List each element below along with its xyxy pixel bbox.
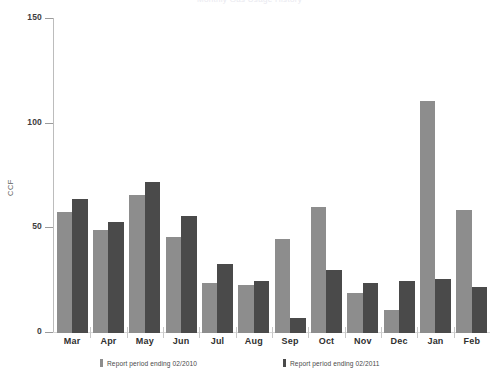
- bar: [181, 216, 197, 333]
- x-axis-label-nov: Nov: [345, 336, 381, 346]
- y-tick-mark: [45, 123, 53, 124]
- bar-groups: [54, 18, 490, 333]
- bar-group: [345, 18, 381, 333]
- bar: [363, 283, 379, 333]
- bar: [202, 283, 218, 333]
- bar-group: [236, 18, 272, 333]
- y-tick-mark: [45, 227, 53, 228]
- y-tick-label: 50: [32, 221, 42, 231]
- bar: [254, 281, 270, 333]
- y-tick-label: 0: [37, 326, 42, 336]
- x-axis-label-feb: Feb: [454, 336, 490, 346]
- bar-group: [90, 18, 126, 333]
- bar-group: [163, 18, 199, 333]
- bar: [72, 199, 88, 333]
- bar-group: [127, 18, 163, 333]
- y-tick-0: 0: [0, 332, 53, 333]
- y-tick-label: 100: [27, 117, 42, 127]
- bar: [435, 279, 451, 333]
- y-tick-label: 150: [27, 12, 42, 22]
- bar: [129, 195, 145, 333]
- x-axis-label-apr: Apr: [90, 336, 126, 346]
- y-tick-150: 150: [0, 18, 53, 19]
- x-axis-label-jan: Jan: [417, 336, 453, 346]
- x-axis-label-sep: Sep: [272, 336, 308, 346]
- bar: [347, 293, 363, 333]
- bar-group: [454, 18, 490, 333]
- y-tick-mark: [45, 332, 53, 333]
- bar: [217, 264, 233, 333]
- bar-group: [381, 18, 417, 333]
- x-axis-label-oct: Oct: [308, 336, 344, 346]
- chart-title: Monthly Gas Usage History: [0, 0, 499, 4]
- bar-group: [417, 18, 453, 333]
- bar: [108, 222, 124, 333]
- bar: [472, 287, 488, 333]
- bar-group: [272, 18, 308, 333]
- legend-item: Report period ending 02/2010: [100, 359, 197, 367]
- bar: [326, 270, 342, 333]
- legend-label: Report period ending 02/2010: [107, 360, 197, 367]
- y-axis-label: CCF: [6, 179, 15, 196]
- chart-legend: Report period ending 02/2010Report perio…: [0, 359, 499, 373]
- x-axis-label-may: May: [127, 336, 163, 346]
- bar: [93, 230, 109, 333]
- bar-chart: Monthly Gas Usage History CCF 050100150 …: [0, 0, 499, 380]
- bar: [456, 210, 472, 334]
- bar-group: [54, 18, 90, 333]
- legend-label: Report period ending 02/2011: [290, 360, 380, 367]
- legend-item: Report period ending 02/2011: [283, 359, 380, 367]
- bar: [275, 239, 291, 333]
- y-tick-50: 50: [0, 227, 53, 228]
- bar-group: [308, 18, 344, 333]
- bar: [384, 310, 400, 333]
- x-axis-label-aug: Aug: [236, 336, 272, 346]
- y-tick-mark: [45, 18, 53, 19]
- legend-swatch-icon: [100, 359, 103, 367]
- bar: [57, 212, 73, 333]
- x-axis-label-dec: Dec: [381, 336, 417, 346]
- bar: [311, 207, 327, 333]
- bar: [399, 281, 415, 333]
- bar: [166, 237, 182, 333]
- bar: [238, 285, 254, 333]
- legend-swatch-icon: [283, 359, 286, 367]
- y-tick-100: 100: [0, 123, 53, 124]
- bar: [290, 318, 306, 333]
- x-axis-label-jun: Jun: [163, 336, 199, 346]
- x-axis-label-jul: Jul: [199, 336, 235, 346]
- bar-group: [199, 18, 235, 333]
- bar: [420, 101, 436, 333]
- bar: [145, 182, 161, 333]
- x-axis-label-mar: Mar: [54, 336, 90, 346]
